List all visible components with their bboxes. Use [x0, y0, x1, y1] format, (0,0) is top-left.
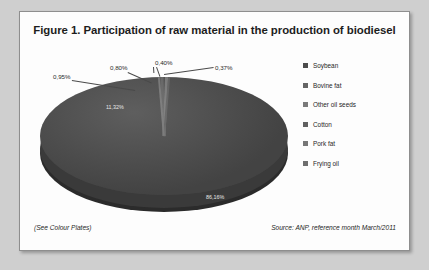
figure-panel: Figure 1. Participation of raw material … — [19, 11, 410, 251]
pie-label-other-oil-seeds: 0,95% — [53, 73, 71, 80]
legend-item-label: Cotton — [313, 121, 332, 128]
legend-item-other-oil-seeds: Other oil seeds — [303, 101, 395, 108]
legend-item-label: Bovine fat — [313, 82, 341, 89]
legend-swatch-icon — [303, 63, 308, 68]
legend-item-label: Other oil seeds — [313, 101, 356, 108]
figure-footer: (See Colour Plates) Source: ANP, referen… — [20, 224, 409, 236]
pie-slice-other-oil-seeds — [160, 77, 165, 136]
page-title: Figure 1. Participation of raw material … — [20, 24, 409, 36]
legend-item-cotton: Cotton — [303, 121, 395, 128]
pie-slice-frying-oil — [158, 77, 165, 136]
legend-swatch-icon — [303, 141, 308, 146]
legend-item-pork-fat: Pork fat — [303, 140, 395, 147]
pie-label-frying-oil: 0,37% — [215, 64, 233, 71]
legend-item-soybean: Soybean — [303, 62, 395, 69]
legend-item-bovine-fat: Bovine fat — [303, 82, 395, 89]
pie-label-pork-fat: 0,40% — [155, 59, 173, 66]
legend-item-frying-oil: Frying oil — [303, 160, 395, 167]
legend-swatch-icon — [303, 102, 308, 107]
leader-line-frying-oil — [164, 67, 214, 75]
pie-label-cotton: 0,80% — [110, 64, 128, 71]
legend-swatch-icon — [303, 83, 308, 88]
leader-line-pork-fat-elbow — [156, 67, 160, 77]
figure-source: Source: ANP, reference month March/2011 — [271, 224, 396, 231]
legend-item-label: Pork fat — [313, 140, 335, 147]
pie-label-soybean: 86,16% — [206, 194, 224, 200]
pie-label-bovine-fat: 11,32% — [106, 104, 124, 110]
legend-swatch-icon — [303, 122, 308, 127]
pie-chart: 86,16% 11,32% 0,95% 0,80% 0,40% 0,37% So… — [20, 46, 409, 218]
legend-swatch-icon — [303, 161, 308, 166]
legend-item-label: Frying oil — [313, 160, 339, 167]
pie-slice-pork-fat — [163, 77, 170, 136]
chart-legend: Soybean Bovine fat Other oil seeds Cotto… — [303, 62, 395, 179]
pie-graphic: 86,16% 11,32% 0,95% 0,80% 0,40% 0,37% — [24, 46, 304, 218]
pie-top-face — [40, 77, 288, 195]
colour-plates-note: (See Colour Plates) — [34, 224, 92, 231]
legend-item-label: Soybean — [313, 62, 338, 69]
leader-line-pork-fat — [153, 67, 154, 73]
pie-slice-cotton — [163, 77, 169, 136]
